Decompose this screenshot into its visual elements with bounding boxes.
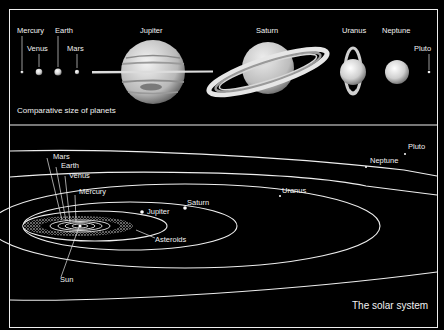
label-pluto: Pluto [414, 45, 431, 53]
marker-pluto [404, 153, 406, 155]
caption-comparative-size: Comparative size of planets [17, 107, 116, 115]
planet-earth [54, 68, 61, 75]
label-venus: Venus [27, 45, 48, 53]
label-orbit-earth: Earth [61, 162, 79, 170]
label-asteroids: Asteroids [155, 236, 186, 244]
planet-jupiter [92, 40, 213, 104]
orbit-outer-lower [10, 272, 437, 300]
label-orbit-venus: Venus [69, 172, 90, 180]
label-uranus: Uranus [342, 27, 366, 35]
planet-uranus [340, 48, 366, 94]
marker-jupiter [140, 210, 144, 214]
planet-neptune [385, 60, 409, 84]
label-orbit-mars: Mars [53, 153, 70, 161]
caption-solar-system: The solar system [352, 301, 428, 311]
label-orbit-pluto: Pluto [408, 143, 425, 151]
label-jupiter: Jupiter [140, 27, 163, 35]
planet-mercury [21, 71, 24, 74]
label-mars: Mars [67, 45, 84, 53]
marker-uranus [279, 195, 281, 197]
label-saturn: Saturn [256, 27, 278, 35]
label-earth: Earth [55, 27, 73, 35]
planet-mars [75, 70, 79, 74]
label-orbit-neptune: Neptune [370, 157, 398, 165]
label-mercury: Mercury [17, 27, 44, 35]
label-sun: Sun [60, 276, 73, 284]
label-orbit-uranus: Uranus [282, 187, 306, 195]
label-orbit-jupiter: Jupiter [147, 208, 170, 216]
planet-saturn [205, 40, 331, 103]
solar-system-diagram: Mercury Venus Earth Mars Jupiter Saturn … [0, 0, 444, 330]
marker-neptune [365, 166, 367, 168]
planet-pluto [428, 71, 431, 74]
label-orbit-mercury: Mercury [79, 188, 106, 196]
label-orbit-saturn: Saturn [187, 199, 209, 207]
planet-venus [36, 69, 43, 76]
label-neptune: Neptune [382, 27, 410, 35]
